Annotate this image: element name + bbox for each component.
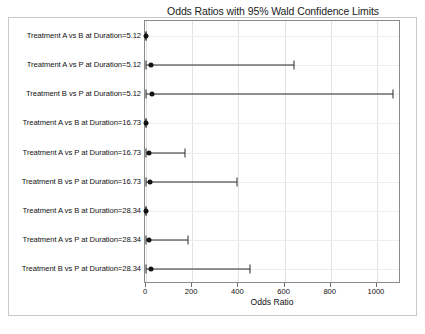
gridline-vertical — [192, 21, 193, 282]
confidence-limit-cap-lower — [146, 90, 147, 99]
odds-ratio-point-estimate — [148, 179, 153, 184]
x-axis-tick-label: 200 — [185, 287, 198, 296]
gridline-vertical — [331, 21, 332, 282]
row-label: Treatment B vs P at Duration=16.73 — [22, 176, 141, 185]
confidence-limit-cap-upper — [185, 148, 186, 157]
row-label: Treatment A vs P at Duration=16.73 — [23, 147, 141, 156]
odds-ratio-point-estimate — [148, 267, 153, 272]
confidence-interval-line — [146, 181, 237, 182]
odds-ratio-point-estimate — [150, 92, 155, 97]
plot-area — [144, 20, 400, 283]
odds-ratio-point-estimate — [144, 208, 149, 213]
confidence-interval-line — [146, 64, 294, 65]
confidence-interval-line — [146, 269, 250, 270]
confidence-limit-cap-upper — [294, 60, 295, 69]
row-label: Treatment A vs B at Duration=28.34 — [22, 205, 141, 214]
gridline-vertical — [285, 21, 286, 282]
gridline-vertical — [377, 21, 378, 282]
odds-ratio-point-estimate — [149, 62, 154, 67]
confidence-limit-cap-lower — [146, 265, 147, 274]
confidence-limit-cap-upper — [237, 177, 238, 186]
confidence-limit-cap-upper — [187, 236, 188, 245]
row-label: Treatment A vs P at Duration=5.12 — [27, 59, 141, 68]
gridline-horizontal — [145, 211, 399, 212]
confidence-limit-cap-upper — [249, 265, 250, 274]
page-title: Odds Ratios with 95% Wald Confidence Lim… — [144, 5, 402, 17]
confidence-limit-cap-lower — [146, 60, 147, 69]
gridline-vertical — [238, 21, 239, 282]
confidence-interval-line — [146, 240, 187, 241]
confidence-limit-cap-lower — [146, 177, 147, 186]
odds-ratio-point-estimate — [144, 33, 149, 38]
x-axis-tick-label: 600 — [277, 287, 290, 296]
confidence-interval-line — [146, 152, 185, 153]
row-label: Treatment B vs P at Duration=28.34 — [22, 264, 141, 273]
odds-ratio-point-estimate — [144, 121, 149, 126]
x-axis-tick-label: 400 — [231, 287, 244, 296]
x-axis-tick-label: 800 — [323, 287, 336, 296]
gridline-horizontal — [145, 36, 399, 37]
gridline-horizontal — [145, 123, 399, 124]
x-axis-tick-label: 0 — [143, 287, 147, 296]
category-axis-labels: Treatment A vs B at Duration=5.12Treatme… — [6, 20, 141, 283]
row-label: Treatment B vs P at Duration=5.12 — [26, 89, 141, 98]
odds-ratio-point-estimate — [146, 150, 151, 155]
odds-ratio-point-estimate — [147, 238, 152, 243]
x-axis-tick-label: 1000 — [367, 287, 384, 296]
confidence-limit-cap-upper — [393, 90, 394, 99]
row-label: Treatment A vs B at Duration=16.73 — [22, 118, 141, 127]
confidence-interval-line — [146, 94, 393, 95]
x-axis-title: Odds Ratio — [144, 297, 400, 307]
row-label: Treatment A vs P at Duration=28.34 — [23, 235, 141, 244]
row-label: Treatment A vs B at Duration=5.12 — [27, 30, 141, 39]
